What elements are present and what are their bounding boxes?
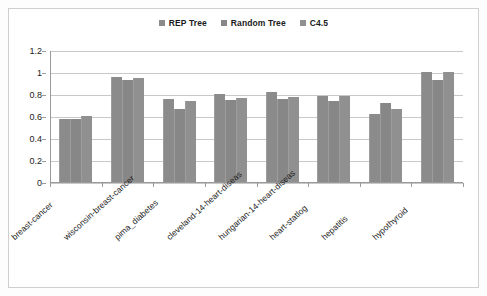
x-axis-tick-mark [411,183,412,187]
y-axis-tick-label: 1.2 [29,46,42,56]
bar[interactable] [70,119,81,183]
bar-group [50,51,102,183]
bar[interactable] [111,77,122,183]
bar-group [308,51,360,183]
bar[interactable] [174,109,185,183]
legend-swatch-icon [300,20,306,26]
bar-group [102,51,154,183]
y-axis-tick-mark [42,139,46,140]
legend-label: REP Tree [169,18,207,28]
y-axis-tick-mark [42,161,46,162]
y-axis-tick-mark [42,183,46,184]
bar[interactable] [133,78,144,183]
legend-entry[interactable]: Random Tree [221,18,286,28]
bar[interactable] [59,119,70,183]
bars-layer [50,51,463,183]
bar-group [360,51,412,183]
bar[interactable] [339,96,350,183]
bar[interactable] [266,92,277,183]
bar[interactable] [380,103,391,183]
bar-group [257,51,309,183]
x-axis-tick-mark [360,183,361,187]
bar[interactable] [81,116,92,183]
x-axis-labels: breast-cancerwisconsin-breast-cancerpima… [50,188,463,283]
bar[interactable] [443,72,454,183]
bar[interactable] [122,80,133,183]
y-axis-tick-label: 0.2 [29,156,42,166]
legend-label: Random Tree [231,18,286,28]
y-axis-labels: 1.210.80.60.40.20 [10,51,46,183]
bar[interactable] [369,114,380,183]
bar[interactable] [214,94,225,183]
x-axis-tick-mark [50,183,51,187]
x-axis-tick-mark [463,183,464,187]
legend-swatch-icon [221,20,227,26]
legend-swatch-icon [159,20,165,26]
bar[interactable] [185,101,196,184]
x-axis-category-label: pima_diabetes [113,198,161,242]
x-axis-tick-mark [308,183,309,187]
legend-entry[interactable]: REP Tree [159,18,207,28]
bar-group [411,51,463,183]
x-axis-tick-mark [153,183,154,187]
y-axis-tick-mark [42,51,46,52]
y-axis-tick-mark [42,95,46,96]
bar-group [153,51,205,183]
bar[interactable] [391,109,402,183]
x-axis-tick-mark [205,183,206,187]
bar-group [205,51,257,183]
bar[interactable] [421,72,432,183]
plot-area [50,51,463,183]
chart-figure: REP TreeRandom TreeC4.5 1.210.80.60.40.2… [0,0,487,296]
bar[interactable] [317,96,328,183]
bar[interactable] [328,101,339,184]
legend-label: C4.5 [310,18,328,28]
x-axis-category-label: hepatitis [319,214,349,243]
x-axis-tick-mark [102,183,103,187]
y-axis-tick-label: 0.6 [29,112,42,122]
x-axis-category-label: hypothyroid [371,206,410,243]
y-axis-tick-mark [42,117,46,118]
y-axis-tick-label: 0.8 [29,90,42,100]
y-axis-tick-label: 0.4 [29,134,42,144]
x-axis-tick-mark [257,183,258,187]
chart-legend: REP TreeRandom TreeC4.5 [0,18,487,28]
y-axis-tick-mark [42,73,46,74]
bar[interactable] [163,99,174,183]
bar[interactable] [432,80,443,183]
x-axis-category-label: heart-statlog [267,203,309,242]
legend-entry[interactable]: C4.5 [300,18,328,28]
